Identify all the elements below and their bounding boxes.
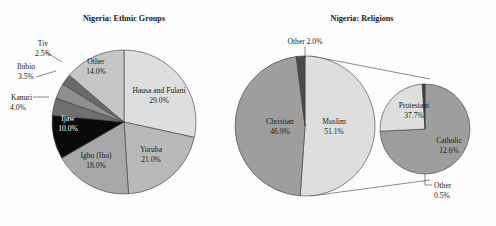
slice-value-yoruba: 21.0% bbox=[141, 155, 161, 164]
slice-value-other-ethnic: 14.0% bbox=[86, 67, 106, 76]
pie-religions-slices bbox=[235, 56, 375, 196]
pie-religions-outside-labels: Other 2.0% bbox=[287, 37, 323, 58]
slice-value-catholic: 12.6% bbox=[439, 146, 459, 155]
slice-label-muslim: Muslim bbox=[322, 117, 346, 126]
figure-canvas: Nigeria: Ethnic Groups Hausa and Fulani … bbox=[0, 0, 496, 226]
slice-value-igbo: 18.0% bbox=[86, 161, 106, 170]
slice-value-protestant: 37.7% bbox=[404, 111, 424, 120]
slice-label-ijaw: Ijaw bbox=[61, 114, 75, 123]
slice-label-kanuri: Kanuri bbox=[11, 93, 32, 102]
slice-value-other-breakout: 0.5% bbox=[434, 191, 450, 200]
slice-value-christian: 46.9% bbox=[270, 127, 290, 136]
slice-value-hausa-and-fulani: 29.0% bbox=[149, 96, 169, 105]
pie-breakout-outside-labels: Other 0.5% bbox=[425, 174, 452, 200]
pie-christian-breakout-slices bbox=[380, 84, 470, 174]
slice-label-igbo: Igbo (Ibo) bbox=[81, 151, 112, 160]
slice-label-catholic: Catholic bbox=[436, 136, 462, 145]
chart-ethnic-groups: Nigeria: Ethnic Groups Hausa and Fulani … bbox=[10, 14, 196, 194]
slice-label-other-breakout: Other bbox=[434, 181, 452, 190]
slice-label-christian: Christian bbox=[266, 117, 294, 126]
dual-pie-figure: Nigeria: Ethnic Groups Hausa and Fulani … bbox=[0, 0, 496, 226]
chart-title-religions: Nigeria: Religions bbox=[331, 14, 394, 23]
slice-label-other-ethnic: Other bbox=[87, 57, 105, 66]
slice-label-hausa-and-fulani: Hausa and Fulani bbox=[132, 86, 185, 95]
slice-value-muslim: 51.1% bbox=[324, 127, 344, 136]
leader-line-ibibio bbox=[36, 71, 56, 77]
slice-value-ijaw: 10.0% bbox=[58, 124, 78, 133]
slice-label-protestant: Protestant bbox=[399, 101, 430, 110]
slice-label-ibibio: Ibibio bbox=[17, 62, 35, 71]
slice-value-kanuri: 4.0% bbox=[10, 103, 26, 112]
slice-value-ibibio: 3.5% bbox=[18, 72, 34, 81]
leader-line-other-breakout bbox=[425, 174, 432, 185]
slice-label-tiv: Tiv bbox=[38, 39, 48, 48]
chart-religions: Nigeria: Religions Christian 46.9% Musli… bbox=[235, 14, 470, 200]
slice-label-yoruba: Yoruba bbox=[140, 145, 163, 154]
slice-label-other-religion: Other 2.0% bbox=[287, 37, 323, 46]
slice-value-tiv: 2.5% bbox=[35, 49, 51, 58]
chart-title-ethnic-groups: Nigeria: Ethnic Groups bbox=[83, 14, 165, 23]
pie-ethnic-outside-labels: Tiv 2.5% Ibibio 3.5% Kanuri 4.0% bbox=[10, 39, 62, 112]
